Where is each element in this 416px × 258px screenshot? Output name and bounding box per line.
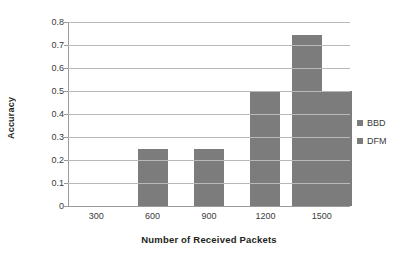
plot-area: [68, 22, 350, 206]
legend-swatch-icon: [357, 120, 363, 126]
y-axis-tick-label: 0.1: [26, 178, 64, 188]
y-axis-tick-mark: [64, 160, 68, 161]
y-axis-title: Accuracy: [6, 78, 22, 158]
y-axis-tick-label: 0.3: [26, 132, 64, 142]
y-axis-tick-label: 0.2: [26, 155, 64, 165]
gridline: [68, 91, 350, 92]
bar: [194, 149, 224, 207]
x-axis-tick-label: 1500: [292, 210, 352, 222]
y-axis-tick-label: 0.7: [26, 40, 64, 50]
y-axis-tick-label: 0.4: [26, 109, 64, 119]
bar: [138, 149, 168, 207]
x-axis-tick-label: 300: [66, 210, 126, 222]
gridline: [68, 206, 350, 207]
x-axis-tick-label: 1200: [235, 210, 295, 222]
y-axis-tick-mark: [64, 91, 68, 92]
y-axis-tick-label: 0.6: [26, 63, 64, 73]
y-axis-tick-labels: 00.10.20.30.40.50.60.70.8: [26, 0, 64, 258]
x-axis-tick-label: 900: [179, 210, 239, 222]
gridline: [68, 114, 350, 115]
y-axis-tick-mark: [64, 22, 68, 23]
gridline: [68, 45, 350, 46]
y-axis-tick-mark: [64, 45, 68, 46]
bar: [322, 91, 352, 206]
bar: [292, 35, 322, 206]
y-axis-tick-label: 0.8: [26, 17, 64, 27]
y-axis-tick-mark: [64, 114, 68, 115]
y-axis-tick-label: 0.5: [26, 86, 64, 96]
x-axis-tick-labels: 30060090012001500: [68, 210, 350, 226]
gridline: [68, 22, 350, 23]
y-axis-tick-mark: [64, 137, 68, 138]
y-axis-tick-mark: [64, 206, 68, 207]
legend-label: BBD: [367, 118, 386, 128]
legend-swatch-icon: [357, 138, 363, 144]
gridline: [68, 183, 350, 184]
x-axis-title: Number of Received Packets: [68, 234, 350, 245]
legend-item: DFM: [357, 132, 413, 150]
y-axis-tick-mark: [64, 183, 68, 184]
bar: [250, 91, 280, 206]
bar-chart: Accuracy 00.10.20.30.40.50.60.70.8 30060…: [0, 0, 416, 258]
gridline: [68, 137, 350, 138]
legend-label: DFM: [367, 136, 387, 146]
legend: BBDDFM: [357, 114, 413, 150]
gridline: [68, 160, 350, 161]
x-axis-tick-label: 600: [123, 210, 183, 222]
y-axis-tick-label: 0: [26, 201, 64, 211]
gridline: [68, 68, 350, 69]
legend-item: BBD: [357, 114, 413, 132]
y-axis-tick-mark: [64, 68, 68, 69]
